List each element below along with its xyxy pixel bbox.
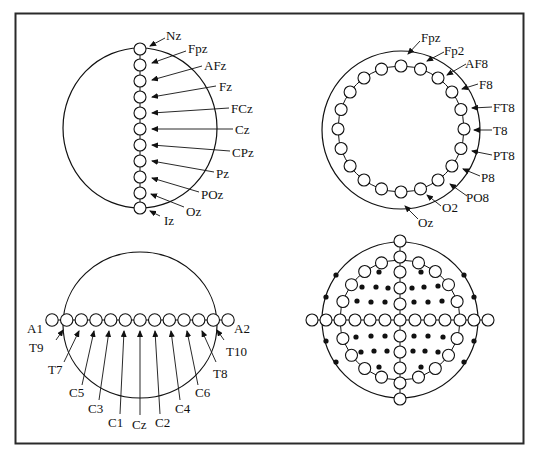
montage-electrode: [429, 363, 441, 375]
montage-electrode: [451, 333, 463, 345]
label-ft8: FT8: [493, 100, 515, 115]
montage-electrode: [359, 363, 371, 375]
label-cz: Cz: [132, 417, 147, 432]
label-po8: PO8: [466, 190, 489, 205]
label-iz: Iz: [164, 213, 174, 228]
montage-electrode: [376, 371, 388, 383]
label-oz: Oz: [418, 215, 433, 230]
ring-electrode: [332, 123, 344, 135]
montage-electrode: [320, 314, 332, 326]
ring-electrode: [358, 72, 370, 84]
montage-electrode: [337, 333, 349, 345]
montage-electrode: [394, 330, 406, 342]
ring-electrode: [335, 104, 347, 116]
label-t10: T10: [226, 344, 247, 359]
label-c1: C1: [108, 415, 123, 430]
montage-electrode: [306, 314, 318, 326]
label-t7: T7: [48, 362, 63, 377]
label-pz: Pz: [216, 166, 229, 181]
ring-electrode: [335, 143, 347, 155]
montage-electrode: [379, 314, 391, 326]
montage-electrode: [337, 296, 349, 308]
montage-electrode: [429, 266, 441, 278]
label-poz: POz: [201, 187, 224, 202]
label-cz: Cz: [235, 122, 250, 137]
montage-electrode: [394, 346, 406, 358]
montage-electrode: [346, 279, 358, 291]
label-a2: A2: [234, 321, 250, 336]
montage-electrode: [349, 314, 361, 326]
label-fcz: FCz: [231, 101, 253, 116]
electrode-fpz: [134, 59, 146, 71]
electrode-a1: [46, 314, 58, 326]
label-c6: C6: [195, 385, 211, 400]
electrode-t8: [193, 314, 205, 326]
electrode-c3: [105, 314, 117, 326]
label-af8: AF8: [465, 56, 488, 71]
electrode-cz: [134, 314, 146, 326]
electrode-cz: [134, 123, 146, 135]
ring-electrode: [395, 186, 407, 198]
label-fpz: Fpz: [421, 30, 441, 45]
montage-electrode: [346, 349, 358, 361]
label-fpz: Fpz: [188, 41, 208, 56]
electrode-fz: [134, 91, 146, 103]
electrode-t10: [207, 314, 219, 326]
montage-electrode: [409, 314, 421, 326]
montage-electrode: [394, 282, 406, 294]
electrode-pz: [134, 155, 146, 167]
electrode-c4: [163, 314, 175, 326]
figure-frame: [16, 14, 524, 444]
ring-electrode: [395, 60, 407, 72]
label-t9: T9: [29, 340, 43, 355]
montage-electrode: [443, 349, 455, 361]
label-oz: Oz: [186, 204, 201, 219]
montage-electrode: [468, 314, 480, 326]
montage-electrode: [394, 377, 406, 389]
label-cpz: CPz: [232, 145, 254, 160]
midline-electrodes: [134, 43, 146, 214]
electrode-poz: [134, 171, 146, 183]
label-f8: F8: [479, 77, 493, 92]
panel-circumferential-ring: Fpz Fp2 AF8 F8 FT8 T8 PT8 P8 PO8 O2 Oz: [322, 30, 515, 230]
electrode-iz: [134, 202, 146, 214]
head-outline: [322, 51, 480, 209]
montage-electrode: [413, 371, 425, 383]
panel-coronal-central: A1 T9 T7 C5 C3 C1 Cz C2 C4 C6 T8 T10 A2: [27, 252, 250, 432]
label-a1: A1: [27, 321, 43, 336]
montage-electrode: [451, 296, 463, 308]
ring-electrode: [432, 174, 444, 186]
label-c2: C2: [155, 415, 170, 430]
ring-electrode: [455, 143, 467, 155]
montage-electrode: [394, 251, 406, 263]
montage-electrode: [394, 314, 406, 326]
label-fp2: Fp2: [444, 43, 464, 58]
electrode-c2: [149, 314, 161, 326]
montage-electrode: [394, 362, 406, 374]
montage-electrode: [334, 314, 346, 326]
electrode-c6: [178, 314, 190, 326]
ring-electrode: [415, 63, 427, 75]
electrode-oz: [134, 187, 146, 199]
montage-electrode: [394, 298, 406, 310]
label-c3: C3: [88, 401, 103, 416]
ring-electrode: [432, 72, 444, 84]
montage-electrode: [394, 393, 406, 405]
montage-electrode: [394, 235, 406, 247]
ring-electrode: [446, 86, 458, 98]
electrode-nz: [134, 43, 146, 55]
label-pt8: PT8: [493, 148, 515, 163]
montage-electrode: [482, 314, 494, 326]
electrode-c1: [119, 314, 131, 326]
label-afz: AFz: [204, 58, 227, 73]
electrode-t9: [60, 314, 72, 326]
ring-electrode: [446, 160, 458, 172]
ring-electrode: [376, 63, 388, 75]
montage-electrode: [443, 279, 455, 291]
panel-top-view-montage: [306, 235, 494, 405]
ring-electrode: [458, 123, 470, 135]
electrode-afz: [134, 75, 146, 87]
eeg-electrode-diagram: Nz Fpz AFz Fz FCz Cz CPz Pz POz Oz Iz: [0, 0, 535, 456]
montage-electrode: [376, 257, 388, 269]
montage-electrode: [394, 266, 406, 278]
